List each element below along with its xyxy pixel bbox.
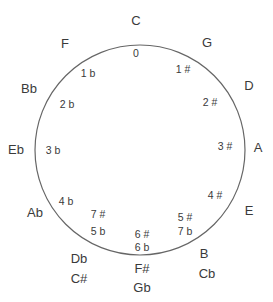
key-signature-sig-2sharp: 2 #	[203, 97, 218, 108]
key-signature-sig-7sharp: 7 #	[91, 209, 106, 220]
key-signature-sig-3sharp: 3 #	[218, 141, 233, 152]
key-label-eb: Eb	[8, 143, 24, 156]
key-signature-sig-4flat: 4 b	[59, 196, 74, 207]
key-label-d: D	[244, 79, 253, 92]
key-signature-sig-1flat: 1 b	[81, 68, 96, 79]
key-signature-sig-0: 0	[133, 48, 139, 59]
key-label-fsharp: F#	[134, 262, 149, 275]
key-label-f: F	[61, 37, 69, 50]
key-label-c: C	[131, 14, 140, 27]
circle-of-fifths-diagram: CGDAEBCbF#GbDbC#AbEbBbF01 #2 #3 #4 #5 #7…	[0, 0, 273, 302]
key-label-b: B	[200, 247, 209, 260]
key-signature-sig-3flat: 3 b	[46, 145, 61, 156]
key-label-cb: Cb	[199, 267, 216, 280]
key-label-ab: Ab	[27, 206, 43, 219]
key-signature-sig-5flat: 5 b	[91, 226, 106, 237]
key-signature-sig-1sharp: 1 #	[176, 64, 191, 75]
key-signature-sig-4sharp: 4 #	[208, 190, 223, 201]
key-label-e: E	[245, 204, 254, 217]
key-label-g: G	[202, 36, 212, 49]
key-signature-sig-6sharp: 6 #	[135, 229, 150, 240]
key-signature-sig-2flat: 2 b	[60, 99, 75, 110]
key-signature-sig-7flat: 7 b	[178, 226, 193, 237]
key-label-csharp: C#	[71, 272, 88, 285]
key-label-a: A	[254, 141, 263, 154]
key-label-db: Db	[71, 252, 88, 265]
key-signature-sig-6flat: 6 b	[135, 242, 150, 253]
key-label-bb: Bb	[21, 82, 37, 95]
key-signature-sig-5sharp: 5 #	[178, 212, 193, 223]
key-label-gb: Gb	[133, 281, 150, 294]
